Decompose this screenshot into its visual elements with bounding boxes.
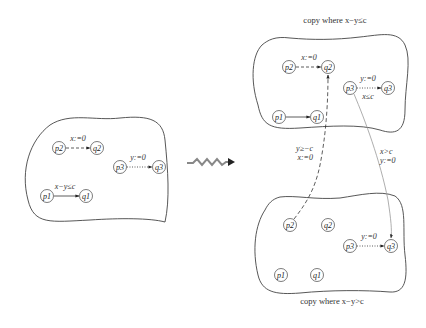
svg-text:p1: p1 xyxy=(276,271,285,280)
left-node-q2: q2 xyxy=(91,142,104,155)
svg-text:q3: q3 xyxy=(155,163,163,172)
svg-text:q2: q2 xyxy=(93,144,101,153)
top-edge-p3-q3-label-bottom: x≤c xyxy=(361,92,374,101)
svg-text:q2: q2 xyxy=(324,63,332,72)
svg-text:p1: p1 xyxy=(274,113,283,122)
squiggly-arrow-icon xyxy=(187,158,235,166)
svg-text:q1: q1 xyxy=(313,113,321,122)
bottom-copy-automaton: p2 q2 p3 q3 y:=0 p1 q1 copy where x−y>c xyxy=(255,193,406,306)
svg-text:p3: p3 xyxy=(345,84,354,93)
svg-text:p2: p2 xyxy=(284,63,293,72)
diagram-canvas: p2 q2 x:=0 p3 q3 y:=0 p1 q1 x−y≤c copy w… xyxy=(0,0,426,328)
bottom-node-p2: p2 xyxy=(284,219,297,232)
svg-text:p3: p3 xyxy=(345,242,354,251)
svg-text:q1: q1 xyxy=(82,192,90,201)
svg-text:q1: q1 xyxy=(313,271,321,280)
top-node-p1: p1 xyxy=(273,111,286,124)
svg-text:p2: p2 xyxy=(54,144,63,153)
left-automaton: p2 q2 x:=0 p3 q3 y:=0 p1 q1 x−y≤c xyxy=(25,117,168,222)
bottom-node-p3: p3 xyxy=(344,240,357,253)
left-region-outline xyxy=(25,117,168,222)
left-node-q1: q1 xyxy=(80,190,93,203)
left-node-p2: p2 xyxy=(53,142,66,155)
bottom-node-p1: p1 xyxy=(275,269,288,282)
svg-text:p2: p2 xyxy=(285,221,294,230)
bottom-node-q2: q2 xyxy=(322,219,335,232)
top-edge-p2-q2-label: x:=0 xyxy=(300,53,317,62)
svg-text:p3: p3 xyxy=(115,163,124,172)
cross-edge-p3-q3-label-2: y:=0 xyxy=(379,156,396,165)
top-node-p3: p3 xyxy=(344,82,357,95)
cross-edge-p2-q2-label-1: y≥−c xyxy=(295,144,313,153)
bottom-node-q1: q1 xyxy=(311,269,324,282)
top-copy-automaton: copy where x−y≤c p2 q2 x:=0 p3 q3 y:=0 x… xyxy=(253,15,408,132)
left-edge-p3-q3-label: y:=0 xyxy=(129,153,146,162)
svg-text:q3: q3 xyxy=(387,242,395,251)
bottom-edge-p3-q3-label: y:=0 xyxy=(360,232,377,241)
top-node-p2: p2 xyxy=(283,61,296,74)
cross-edge-p3-q3-label-1: x>c xyxy=(379,147,393,156)
top-copy-caption: copy where x−y≤c xyxy=(303,15,366,25)
bottom-node-q3: q3 xyxy=(385,240,398,253)
cross-edges: y≥−c x:=0 x>c y:=0 xyxy=(294,75,396,238)
cross-edge-p2-q2-label-2: x:=0 xyxy=(296,153,313,162)
top-edge-p3-q3-label-top: y:=0 xyxy=(359,74,376,83)
left-node-q3: q3 xyxy=(153,161,166,174)
svg-text:q2: q2 xyxy=(324,221,332,230)
left-node-p3: p3 xyxy=(114,161,127,174)
top-node-q1: q1 xyxy=(311,111,324,124)
top-node-q2: q2 xyxy=(322,61,335,74)
left-node-p1: p1 xyxy=(41,190,54,203)
left-edge-p1-q1-label: x−y≤c xyxy=(54,182,76,191)
bottom-copy-caption: copy where x−y>c xyxy=(300,296,364,306)
cross-edge-top-p3-bottom-q3 xyxy=(354,94,391,238)
left-edge-p2-q2-label: x:=0 xyxy=(69,134,86,143)
svg-text:p1: p1 xyxy=(42,192,51,201)
top-node-q3: q3 xyxy=(382,82,395,95)
svg-text:q3: q3 xyxy=(384,84,392,93)
